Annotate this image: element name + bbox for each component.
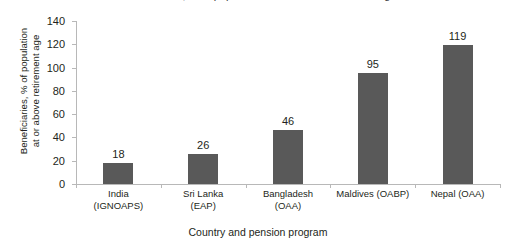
x-tick-label-line: (OAA)	[275, 200, 301, 211]
bar: 119	[443, 45, 473, 184]
y-tick-label: 40	[53, 131, 65, 143]
x-tick-label: India(IGNOAPS)	[94, 188, 144, 211]
bar-value-label: 18	[112, 148, 124, 160]
x-tick-label: Nepal (OAA)	[431, 188, 485, 200]
y-axis-title: Beneficiaries, % of population at or abo…	[15, 0, 45, 184]
bar: 46	[273, 130, 303, 184]
plot-area: 020406080100120140 18264695119 India(IGN…	[76, 21, 500, 184]
x-tick-label-line: (IGNOAPS)	[94, 200, 144, 211]
y-tick-label: 20	[53, 155, 65, 167]
x-tick-label-line: Maldives (OABP)	[336, 188, 409, 199]
bar: 95	[358, 73, 388, 184]
x-tick	[161, 184, 162, 188]
x-tick	[246, 184, 247, 188]
bar-value-label: 26	[197, 139, 209, 151]
y-tick: 100	[72, 68, 76, 69]
y-tick: 40	[72, 137, 76, 138]
y-tick-label: 0	[59, 178, 65, 190]
x-tick	[330, 184, 331, 188]
y-tick-label: 120	[47, 38, 65, 50]
y-tick: 140	[72, 21, 76, 22]
bar-value-label: 119	[449, 30, 467, 42]
x-tick-label-line: Nepal (OAA)	[431, 188, 485, 199]
y-tick: 60	[72, 114, 76, 115]
y-tick-label: 140	[47, 15, 65, 27]
bar-value-label: 95	[367, 58, 379, 70]
x-tick-label-line: Bangladesh	[263, 188, 313, 199]
x-axis-line	[76, 184, 500, 185]
bar-value-label: 46	[282, 115, 294, 127]
y-tick: 20	[72, 161, 76, 162]
x-tick-label: Bangladesh(OAA)	[263, 188, 313, 211]
bar: 18	[103, 163, 133, 184]
x-tick-label: Maldives (OABP)	[336, 188, 409, 200]
y-axis-line	[76, 21, 77, 184]
y-tick-label: 80	[53, 85, 65, 97]
x-tick-label-line: India	[108, 188, 129, 199]
x-tick	[500, 184, 501, 188]
y-tick-label: 60	[53, 108, 65, 120]
x-tick-label: Sri Lanka(EAP)	[183, 188, 223, 211]
y-tick: 120	[72, 44, 76, 45]
x-tick	[76, 184, 77, 188]
bar: 26	[188, 154, 218, 184]
bar-chart: Beneficiaries, % of population at or abo…	[0, 0, 516, 245]
chart-title: Beneficiaries, % of population at or abo…	[0, 0, 516, 1]
x-tick-label-line: (EAP)	[191, 200, 216, 211]
x-tick	[415, 184, 416, 188]
y-tick: 80	[72, 91, 76, 92]
y-axis-title-line1: Beneficiaries, % of population	[18, 28, 29, 154]
x-tick-label-line: Sri Lanka	[183, 188, 223, 199]
x-axis-title: Country and pension program	[0, 226, 516, 238]
y-tick-label: 100	[47, 62, 65, 74]
y-axis-title-line2: at or above retirement age	[30, 35, 41, 148]
